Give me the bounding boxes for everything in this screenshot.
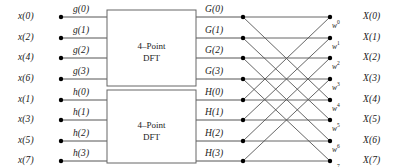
input-label-3: x(6) xyxy=(18,74,34,84)
twiddle-label-2: w2 xyxy=(332,61,340,70)
twiddle-label-1: w1 xyxy=(332,41,340,50)
bottom-dft-label-line1: 4–Point xyxy=(107,120,196,132)
odd-sequence-label-1: h(1) xyxy=(73,108,89,118)
even-dft-output-label-3: G(3) xyxy=(205,67,223,77)
output-label-2: X(2) xyxy=(363,53,380,63)
input-label-5: x(3) xyxy=(18,115,34,125)
odd-dft-output-label-3: H(3) xyxy=(205,149,223,159)
bottom-dft-label-line2: DFT xyxy=(107,132,196,144)
output-label-0: X(0) xyxy=(363,12,380,22)
twiddle-label-4: w4 xyxy=(332,103,340,112)
input-label-1: x(2) xyxy=(18,33,34,43)
twiddle-label-6: w6 xyxy=(332,144,340,153)
even-sequence-label-1: g(1) xyxy=(73,26,89,36)
twiddle-label-5: w5 xyxy=(332,123,340,132)
odd-dft-output-label-1: H(1) xyxy=(205,108,223,118)
fft-signal-flow-diagram: x(0) x(2) x(4) x(6) x(1) x(3) x(5) x(7) … xyxy=(0,0,397,167)
twiddle-label-7: w7 xyxy=(332,164,340,167)
even-dft-output-label-1: G(1) xyxy=(205,26,223,36)
even-sequence-label-3: g(3) xyxy=(73,67,89,77)
twiddle-label-0: w0 xyxy=(332,20,340,29)
output-label-5: X(5) xyxy=(363,115,380,125)
odd-sequence-label-2: h(2) xyxy=(73,129,89,139)
even-dft-output-label-0: G(0) xyxy=(205,5,223,15)
input-label-0: x(0) xyxy=(18,12,34,22)
odd-sequence-label-0: h(0) xyxy=(73,88,89,98)
output-label-6: X(6) xyxy=(363,136,380,146)
even-sequence-label-0: g(0) xyxy=(73,5,89,15)
output-label-4: X(4) xyxy=(363,95,380,105)
top-dft-label-line2: DFT xyxy=(107,53,196,65)
even-dft-output-label-2: G(2) xyxy=(205,46,223,56)
twiddle-label-3: w3 xyxy=(332,82,340,91)
top-dft-label-line1: 4–Point xyxy=(107,41,196,53)
odd-sequence-label-3: h(3) xyxy=(73,149,89,159)
output-label-3: X(3) xyxy=(363,74,380,84)
input-label-6: x(5) xyxy=(18,136,34,146)
top-dft-block-label: 4–Point DFT xyxy=(107,41,196,64)
output-label-7: X(7) xyxy=(363,156,380,166)
input-label-2: x(4) xyxy=(18,53,34,63)
input-label-7: x(7) xyxy=(18,156,34,166)
odd-dft-output-label-2: H(2) xyxy=(205,129,223,139)
bottom-dft-block-label: 4–Point DFT xyxy=(107,120,196,143)
even-sequence-label-2: g(2) xyxy=(73,46,89,56)
odd-dft-output-label-0: H(0) xyxy=(205,88,223,98)
output-label-1: X(1) xyxy=(363,33,380,43)
input-label-4: x(1) xyxy=(18,95,34,105)
